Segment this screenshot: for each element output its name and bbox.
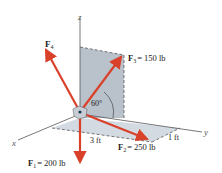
force-f4-subscript: 4	[51, 44, 54, 50]
horizontal-plane	[52, 118, 180, 142]
dimension-3ft-label: 3 ft	[90, 136, 102, 145]
force-f3-subscript: 3	[133, 58, 136, 64]
force-f2-label: F2= 250 lb	[118, 142, 156, 153]
force-f1-value: = 200 lb	[37, 158, 65, 168]
force-f2-value: = 250 lb	[127, 142, 155, 152]
force-f4-arrow	[46, 50, 80, 112]
force-f2-subscript: 2	[123, 147, 126, 153]
x-axis-label: x	[11, 138, 16, 148]
force-diagram: z y x F4 F3= 150 lb F2= 250 lb F1= 200 l…	[0, 0, 222, 173]
force-f3-label: F3= 150 lb	[128, 53, 166, 64]
angle-label: 60°	[91, 99, 102, 108]
force-f1-label: F1= 200 lb	[28, 158, 66, 169]
z-axis-label: z	[77, 12, 82, 22]
y-axis-label: y	[203, 127, 208, 137]
force-f1-subscript: 1	[33, 163, 36, 169]
origin-point-icon	[78, 110, 81, 113]
dimension-1ft-label: 1 ft	[168, 133, 180, 142]
force-f3-value: = 150 lb	[137, 53, 165, 63]
force-f4-label: F4	[45, 39, 54, 50]
